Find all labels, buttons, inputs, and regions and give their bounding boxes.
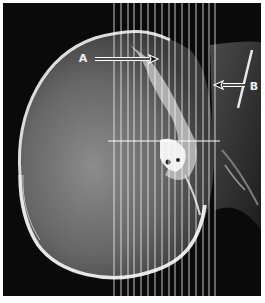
mastoid-air-cell: [176, 158, 180, 162]
annotation-label-a: A: [79, 52, 88, 65]
annotation-label-b: B: [250, 80, 258, 93]
neck-soft-tissue: [210, 41, 261, 230]
radiograph-canvas: A B: [0, 0, 265, 303]
skull-radiograph-figure: A B: [0, 0, 265, 303]
ear-canal: [166, 160, 171, 165]
